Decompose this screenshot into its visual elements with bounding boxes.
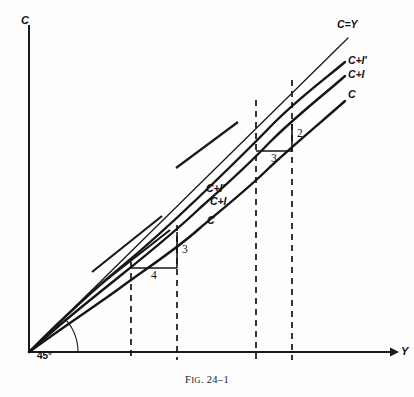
- label-c-plus-i-right: C+I: [348, 68, 364, 80]
- caption-smallcaps: IG: [191, 375, 201, 385]
- left-triangle-rise-label: 3: [182, 243, 188, 255]
- figure-container: C Y 45° C=Y C+I' C+I C C+I' C+I C 4 3 3 …: [0, 0, 414, 397]
- right-triangle-run-label: 3: [271, 152, 277, 164]
- x-axis-label: Y: [401, 345, 408, 357]
- y-axis-label: C: [21, 14, 29, 26]
- right-triangle-rise-label: 2: [297, 127, 303, 139]
- curve-c-plus-i: [29, 76, 345, 352]
- angle-label-45: 45°: [37, 350, 52, 361]
- label-c-equals-y: C=Y: [337, 18, 357, 30]
- left-triangle-run-label: 4: [151, 269, 157, 281]
- curve-c-plus-i-prime: [29, 62, 345, 352]
- label-c-plus-i-prime-mid: C+I': [206, 182, 225, 194]
- label-c-right: C: [348, 88, 355, 100]
- figure-caption: FIG. 24–1: [0, 374, 414, 385]
- label-c-plus-i-prime-right: C+I': [348, 54, 367, 66]
- caption-number: . 24–1: [201, 374, 229, 385]
- label-c-mid: C: [207, 214, 214, 226]
- tangent-segment-upper: [176, 122, 238, 168]
- x-axis-arrowhead: [390, 348, 399, 357]
- label-c-plus-i-mid: C+I: [210, 195, 226, 207]
